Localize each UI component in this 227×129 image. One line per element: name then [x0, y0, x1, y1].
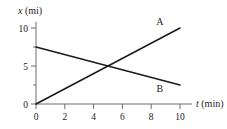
x-tick-label-8: 8 — [149, 112, 154, 122]
position-time-line-chart: 10 5 0 0 2 4 6 8 10 x(mi) t(min) A B — [0, 0, 227, 129]
graph-figure: 10 5 0 0 2 4 6 8 10 x(mi) t(min) A B — [0, 0, 227, 129]
x-axis-title-var: t — [196, 98, 199, 109]
x-axis-title-unit: (min) — [201, 98, 223, 110]
y-tick-label-5: 5 — [23, 62, 28, 72]
x-tick-label-10: 10 — [175, 112, 185, 122]
chart-background — [0, 0, 227, 129]
y-tick-label-10: 10 — [19, 24, 29, 34]
y-axis-title: x(mi) — [17, 5, 42, 17]
y-axis-title-unit: (mi) — [25, 5, 42, 17]
x-tick-label-2: 2 — [62, 112, 67, 122]
y-tick-label-0: 0 — [23, 100, 28, 110]
x-tick-label-4: 4 — [91, 112, 96, 122]
x-tick-label-6: 6 — [120, 112, 125, 122]
y-axis-title-var: x — [17, 5, 23, 16]
series-label-b: B — [157, 83, 164, 94]
x-tick-label-0: 0 — [34, 112, 39, 122]
series-label-a: A — [156, 16, 164, 27]
